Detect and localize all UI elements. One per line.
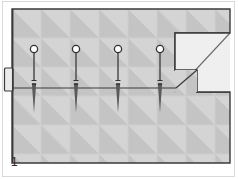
left-edge-tab-shape: [5, 68, 14, 91]
fastener-1-head: [30, 45, 37, 52]
technical-drawing-canvas: [0, 0, 238, 179]
left-edge-tab: [5, 68, 14, 91]
fastener-4-head: [156, 45, 163, 52]
fastener-2-head: [72, 45, 79, 52]
fastener-3-head: [114, 45, 121, 52]
figure-number-label: 1: [11, 156, 18, 169]
figure-plate: 1: [0, 0, 238, 179]
